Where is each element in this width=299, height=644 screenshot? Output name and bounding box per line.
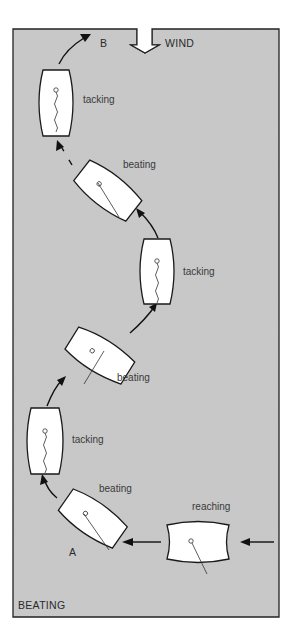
boat-tacking-1: [39, 70, 73, 136]
label-tacking-1: tacking: [83, 94, 115, 105]
start-point-label: A: [69, 546, 76, 558]
boat-tacking-3: [27, 408, 63, 474]
label-beating-1: beating: [99, 483, 132, 494]
boat-tacking-2: [140, 239, 174, 304]
label-beating-3: beating: [123, 159, 156, 170]
label-tacking-3: tacking: [72, 434, 104, 445]
diagram-title: BEATING: [18, 599, 65, 611]
label-reaching: reaching: [192, 501, 230, 512]
end-point-label: B: [100, 37, 107, 49]
label-beating-2: beating: [117, 372, 150, 383]
beating-diagram: B WIND A BEATING tacking: [0, 0, 299, 644]
label-tacking-2: tacking: [183, 266, 215, 277]
wind-label: WIND: [165, 37, 194, 49]
